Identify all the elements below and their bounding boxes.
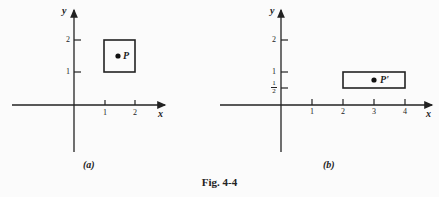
- x-tick-2: 2: [341, 107, 345, 116]
- y-axis-label: y: [62, 5, 66, 16]
- y-tick-1: 1: [272, 67, 276, 76]
- y-tick-half: 12: [271, 80, 277, 95]
- x-tick-3: 3: [372, 107, 376, 116]
- x-tick-1: 1: [103, 108, 107, 117]
- panel-label-b: (b): [323, 159, 335, 170]
- y-tick-1: 1: [66, 67, 70, 76]
- y-axis-label: y: [270, 5, 274, 16]
- figure-caption: Fig. 4-4: [0, 176, 439, 188]
- x-tick-1: 1: [310, 107, 314, 116]
- point-label-p-prime: P': [380, 74, 389, 85]
- x-axis-label: x: [158, 108, 163, 119]
- panel-label-a: (a): [83, 159, 95, 170]
- point-label-p: P: [123, 50, 129, 61]
- x-tick-2: 2: [133, 108, 137, 117]
- y-tick-2: 2: [66, 35, 70, 44]
- y-tick-2: 2: [272, 35, 276, 44]
- x-axis-label: x: [426, 108, 431, 119]
- x-tick-4: 4: [403, 107, 407, 116]
